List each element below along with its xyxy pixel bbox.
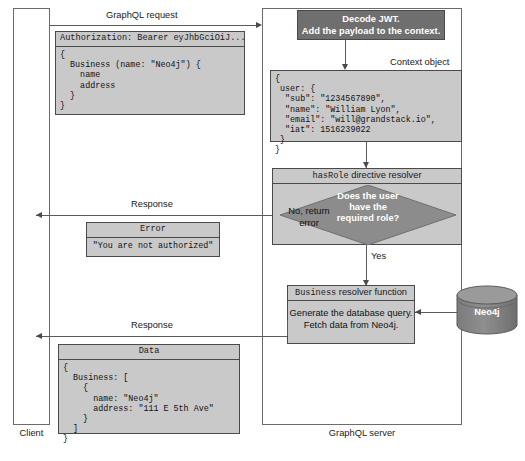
data-box-body: { Business: [ { name: "Neo4j" address: "… [59,360,239,445]
hasrole-resolver-box: hasRole directive resolver Does the user… [272,168,462,245]
lane-client-label: Client [13,428,50,438]
lane-graphql-server-label: GraphQL server [262,428,462,438]
edge-label-yes: Yes [371,251,386,261]
edge-label-response-error: Response [131,199,173,209]
no-branch-label: No, return error [275,205,343,229]
business-resolver-text: Generate the database query. Fetch data … [288,301,414,331]
resolver-line2: Fetch data from Neo4j. [288,319,414,331]
context-object-box: { user: { "sub": "1234567890", "name": "… [270,70,462,142]
yes-branch-line [366,245,367,285]
edge-label-response-data: Response [131,320,173,330]
request-box: Authorization: Bearer eyJhbGciOiJ... { B… [55,31,245,115]
resolver-header-mono: Business [295,288,336,298]
hasrole-header-rest: directive resolver [349,170,422,180]
request-arrow-line [50,25,256,26]
error-response-arrowhead [36,212,42,218]
data-response-vline [287,320,288,336]
decode-to-context-line [345,40,346,67]
db-to-resolver-arrowhead [415,309,421,315]
error-response-line [36,215,272,216]
hasrole-header-mono: hasRole [313,171,349,181]
request-box-header: Authorization: Bearer eyJhbGciOiJ... [56,32,244,47]
neo4j-database-label: Neo4j [455,307,519,317]
diagram-canvas: Client GraphQL server GraphQL request Au… [0,0,525,461]
resolver-line1: Generate the database query. [288,307,414,319]
data-box: Data { Business: [ { name: "Neo4j" addre… [58,344,240,434]
decode-jwt-line1: Decode JWT. [342,13,399,25]
data-box-header: Data [59,345,239,360]
no-branch-line1: No, return [275,205,343,217]
hasrole-resolver-header: hasRole directive resolver [273,169,461,184]
request-arrow-head [256,22,262,28]
context-object-label: Context object [390,57,449,67]
business-resolver-box: Business resolver function Generate the … [287,285,415,344]
no-branch-line2: error [275,217,343,229]
resolver-header-rest: resolver function [336,287,407,297]
decode-jwt-line2: Add the payload to the context. [302,25,440,37]
request-box-body: { Business (name: "Neo4j") { name addres… [56,47,244,111]
lane-client [13,8,50,425]
decode-jwt-box: Decode JWT. Add the payload to the conte… [297,10,445,40]
edge-label-graphql-request: GraphQL request [106,10,178,20]
business-resolver-header: Business resolver function [288,286,414,301]
data-response-line [36,336,287,337]
error-box-body: "You are not authorized" [87,238,219,251]
error-box-header: Error [87,223,219,238]
decode-jwt-text: Decode JWT. Add the payload to the conte… [298,11,444,39]
error-box: Error "You are not authorized" [86,222,220,257]
data-response-arrowhead [36,333,42,339]
decision-line1: Does the user [280,191,456,202]
